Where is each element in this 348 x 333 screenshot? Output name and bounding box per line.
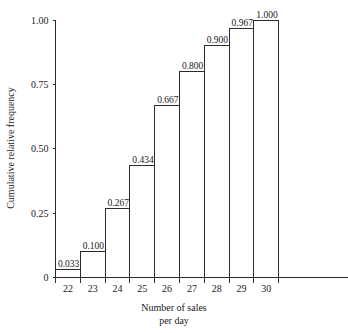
y-tick-label: 0.25 bbox=[31, 208, 49, 219]
bar bbox=[180, 72, 205, 278]
bars-group bbox=[56, 20, 279, 278]
x-axis-ticks: 222324252627282930 bbox=[56, 278, 279, 294]
y-axis-title-group: Cumulative relative frequency bbox=[5, 87, 16, 209]
bar bbox=[254, 20, 279, 278]
x-tick-label: 26 bbox=[162, 283, 172, 294]
bar bbox=[130, 166, 155, 278]
bar-value-label: 0.267 bbox=[108, 198, 130, 208]
bar-value-label: 0.967 bbox=[232, 18, 254, 28]
x-tick-label: 28 bbox=[212, 283, 222, 294]
bar-value-label: 0.033 bbox=[58, 259, 80, 269]
y-tick-label: 0.50 bbox=[31, 143, 49, 154]
bar bbox=[204, 46, 229, 278]
y-axis-title: Cumulative relative frequency bbox=[5, 87, 16, 209]
x-tick-label: 24 bbox=[113, 283, 123, 294]
bar-value-label: 0.900 bbox=[207, 35, 229, 45]
chart-canvas: Cumulative relative frequency 00.250.500… bbox=[0, 0, 348, 333]
x-tick-label: 25 bbox=[137, 283, 147, 294]
bar-value-label: 1.000 bbox=[256, 10, 278, 20]
bar-value-label: 0.800 bbox=[182, 61, 204, 71]
bar bbox=[229, 28, 254, 277]
x-tick-label: 22 bbox=[63, 283, 73, 294]
cumulative-relative-frequency-chart: Cumulative relative frequency 00.250.500… bbox=[0, 0, 348, 333]
bar bbox=[80, 252, 105, 278]
bar bbox=[105, 209, 130, 278]
bar-value-label: 0.434 bbox=[132, 155, 154, 165]
bar-value-label: 0.667 bbox=[157, 95, 179, 105]
x-tick-label: 29 bbox=[237, 283, 247, 294]
bar bbox=[56, 269, 81, 277]
value-labels-group: 0.0330.1000.2670.4340.6670.8000.9000.967… bbox=[58, 10, 278, 269]
x-tick-label: 30 bbox=[261, 283, 271, 294]
y-tick-label: 0 bbox=[44, 272, 49, 283]
y-tick-label: 0.75 bbox=[31, 79, 49, 90]
bar bbox=[155, 106, 180, 278]
x-axis-title-line2: per day bbox=[159, 315, 189, 326]
y-axis-ticks: 00.250.500.751.00 bbox=[31, 15, 56, 284]
x-axis-title-line1: Number of sales bbox=[141, 302, 207, 313]
x-tick-label: 23 bbox=[88, 283, 98, 294]
bar-value-label: 0.100 bbox=[83, 241, 105, 251]
x-tick-label: 27 bbox=[187, 283, 197, 294]
y-tick-label: 1.00 bbox=[31, 15, 49, 26]
